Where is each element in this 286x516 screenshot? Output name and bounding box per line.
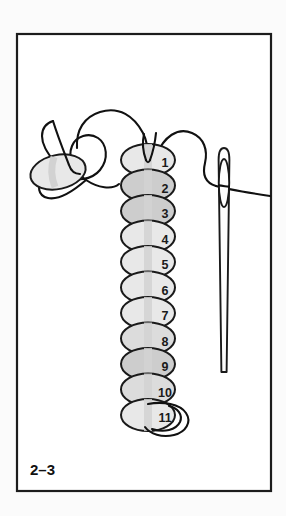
bead-number: 2 <box>162 182 169 196</box>
bead-stack: 1234567891011 <box>121 144 175 431</box>
bead-number: 6 <box>162 284 169 298</box>
bead-number: 10 <box>158 386 172 400</box>
figure-root: 1234567891011 2–3 <box>0 0 286 516</box>
beading-diagram: 1234567891011 2–3 <box>0 0 286 516</box>
beading-needle <box>219 148 230 372</box>
bead-number: 5 <box>162 258 169 272</box>
needle-eye <box>219 159 229 207</box>
bead-number: 7 <box>162 309 169 323</box>
bead-number: 9 <box>162 360 169 374</box>
figure-label: 2–3 <box>30 461 55 478</box>
bead-number: 11 <box>158 411 171 425</box>
bead-number: 1 <box>162 156 169 170</box>
stop-bead-channel <box>52 157 55 187</box>
bead-number: 3 <box>162 207 169 221</box>
bead-number: 4 <box>162 233 169 247</box>
bead-number: 8 <box>162 335 169 349</box>
thread-inside-needle-eye <box>219 185 229 186</box>
